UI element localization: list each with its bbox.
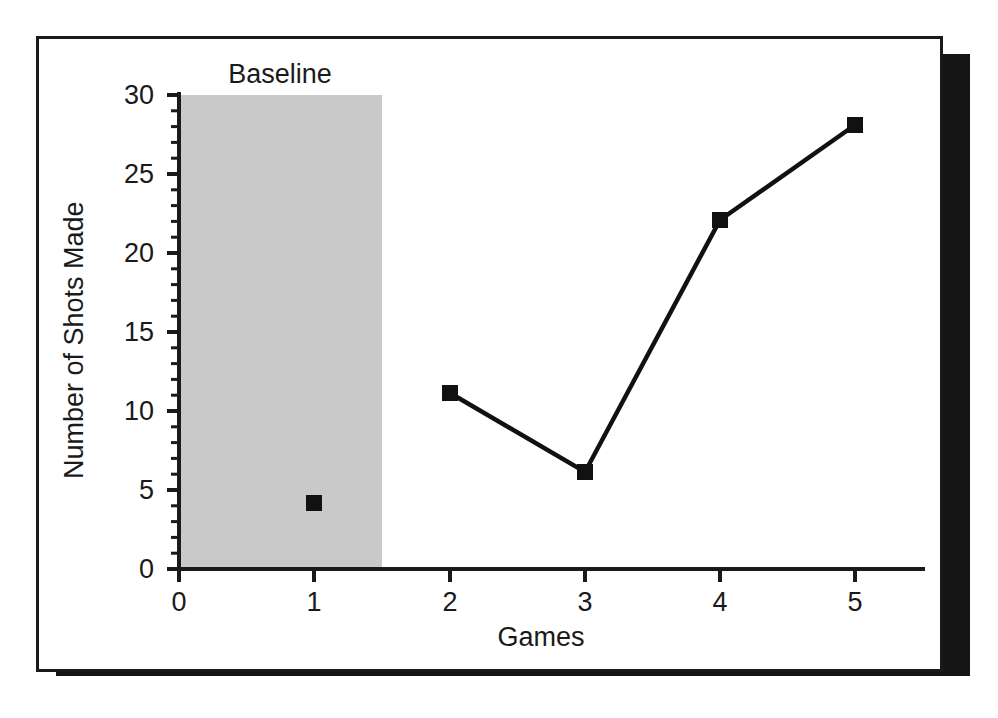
y-axis-title: Number of Shots Made: [59, 201, 90, 479]
y-tick-label-20: 20: [94, 238, 154, 269]
x-tick-label-2: 2: [420, 587, 480, 618]
x-tick-label-0: 0: [149, 587, 209, 618]
phase-label-baseline: Baseline: [150, 59, 410, 90]
y-tick-label-5: 5: [94, 475, 154, 506]
y-tick-label-0: 0: [94, 554, 154, 585]
x-tick-label-5: 5: [825, 587, 885, 618]
y-tick-label-25: 25: [94, 159, 154, 190]
data-point-game-4: [712, 212, 728, 228]
x-tick-label-1: 1: [284, 587, 344, 618]
x-tick-label-3: 3: [555, 587, 615, 618]
x-axis-title: Games: [441, 622, 641, 653]
figure-root: 0 5 10 15 20 25 30 0 1 2 3 4 5 Baseline …: [0, 0, 998, 718]
line-chart-svg: [39, 39, 946, 675]
data-point-game-5: [847, 117, 863, 133]
y-tick-label-30: 30: [94, 80, 154, 111]
plot-area: 0 5 10 15 20 25 30 0 1 2 3 4 5 Baseline …: [39, 39, 946, 675]
x-tick-label-4: 4: [690, 587, 750, 618]
chart-panel: 0 5 10 15 20 25 30 0 1 2 3 4 5 Baseline …: [36, 36, 943, 672]
data-point-game-1: [306, 495, 322, 511]
data-point-game-3: [577, 464, 593, 480]
data-point-game-2: [442, 385, 458, 401]
baseline-phase-shading: [179, 95, 382, 569]
y-tick-label-10: 10: [94, 396, 154, 427]
data-line-treatment: [450, 125, 855, 472]
y-tick-label-15: 15: [94, 317, 154, 348]
